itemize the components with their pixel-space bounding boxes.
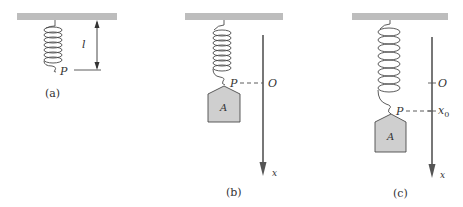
- displacement-subscript: 0: [444, 110, 449, 119]
- origin-label: O: [438, 77, 447, 90]
- mass-label: A: [219, 102, 227, 113]
- spring: [378, 20, 400, 114]
- arrow-down-icon: [260, 162, 267, 176]
- caption-c: (c): [393, 187, 408, 200]
- arrow-up-icon: [95, 20, 100, 28]
- ceiling: [185, 13, 283, 20]
- panel-b: A P O x (b): [185, 13, 283, 199]
- spring-mass-diagram: P l (a) A P O x (b): [0, 0, 463, 207]
- mass-label: A: [386, 131, 394, 142]
- panel-a: P l (a): [17, 13, 117, 100]
- caption-b: (b): [226, 186, 242, 199]
- length-label: l: [82, 38, 86, 51]
- arrow-down-icon: [95, 62, 100, 70]
- axis-label: x: [440, 170, 445, 180]
- point-label-p: P: [59, 65, 68, 78]
- point-label-p: P: [395, 105, 404, 118]
- origin-label: O: [268, 77, 277, 90]
- ceiling: [17, 13, 117, 20]
- spring: [213, 20, 231, 85]
- point-label-p: P: [229, 77, 238, 90]
- arrow-down-icon: [429, 164, 436, 178]
- axis-label: x: [272, 168, 277, 178]
- caption-a: (a): [45, 87, 60, 100]
- ceiling: [352, 13, 448, 20]
- panel-c: A P O x0 x (c): [352, 13, 449, 200]
- displacement-label: x0: [438, 104, 449, 119]
